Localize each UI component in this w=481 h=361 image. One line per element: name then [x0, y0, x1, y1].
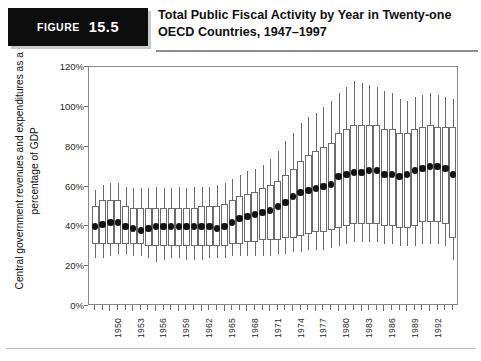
x-axis-tick-mark	[406, 305, 407, 311]
y-axis-tick-label: 100%	[50, 100, 84, 111]
plot-frame	[88, 66, 458, 305]
y-axis-tick-label: 0%	[50, 300, 84, 311]
box-quartile-range	[449, 127, 456, 239]
figure-title: Total Public Fiscal Activity by Year in …	[158, 7, 474, 40]
x-axis-tick-mark	[94, 305, 95, 310]
x-axis-tick-mark	[117, 305, 118, 310]
x-axis-tick-label: 1953	[136, 318, 146, 338]
x-axis-tick-mark	[429, 305, 430, 311]
x-axis-tick-mark	[399, 305, 400, 310]
x-axis-tick-mark	[125, 305, 126, 310]
x-axis-tick-mark	[437, 305, 438, 310]
x-axis-tick-mark	[170, 305, 171, 310]
x-axis-tick-mark	[239, 305, 240, 310]
x-axis-tick-mark	[361, 305, 362, 311]
figure-badge: Figure 15.5	[8, 8, 148, 46]
x-axis-tick-mark	[269, 305, 270, 311]
box-whisker-item	[89, 67, 457, 304]
x-axis-tick-mark	[109, 305, 110, 311]
x-axis-tick-label: 1965	[227, 318, 237, 338]
x-axis-tick-label: 1980	[341, 318, 351, 338]
x-axis-tick-mark	[102, 305, 103, 310]
x-axis-tick-label: 1989	[410, 318, 420, 338]
x-axis-tick-mark	[277, 305, 278, 310]
chart-area: Central government revenues and expendit…	[0, 52, 481, 322]
x-axis-tick-mark	[178, 305, 179, 311]
x-axis-tick-mark	[322, 305, 323, 310]
page-bottom-divider	[6, 348, 476, 349]
x-axis-tick-mark	[315, 305, 316, 311]
x-axis-tick-label: 1983	[364, 318, 374, 338]
x-axis-tick-mark	[163, 305, 164, 310]
x-axis-tick-label: 1977	[318, 318, 328, 338]
y-axis-labels: 0%20%40%60%80%100%120%	[44, 66, 84, 305]
x-axis-labels: 1950195319561959196219651968197119741977…	[88, 312, 458, 352]
x-axis-tick-label: 1968	[250, 318, 260, 338]
y-axis-tick-label: 120%	[50, 61, 84, 72]
x-axis-tick-mark	[185, 305, 186, 310]
y-axis-tick-label: 20%	[50, 260, 84, 271]
x-axis-tick-mark	[414, 305, 415, 310]
x-axis-tick-label: 1971	[273, 318, 283, 338]
x-axis-tick-mark	[155, 305, 156, 311]
median-marker	[450, 171, 457, 178]
x-axis-tick-mark	[330, 305, 331, 310]
figure-badge-label: Figure	[37, 21, 80, 33]
x-axis-tick-mark	[353, 305, 354, 310]
x-axis-tick-label: 1974	[296, 318, 306, 338]
x-axis-tick-label: 1956	[158, 318, 168, 338]
x-axis-tick-mark	[201, 305, 202, 311]
x-axis-tick-mark	[140, 305, 141, 310]
x-axis-tick-mark	[262, 305, 263, 310]
x-axis-tick-mark	[216, 305, 217, 310]
x-axis-tick-mark	[444, 305, 445, 310]
x-axis-tick-label: 1992	[433, 318, 443, 338]
x-axis-tick-mark	[307, 305, 308, 310]
x-axis-tick-label: 1950	[113, 318, 123, 338]
x-axis-tick-mark	[147, 305, 148, 310]
x-axis-tick-mark	[452, 305, 453, 310]
figure-badge-number: 15.5	[89, 19, 119, 35]
x-axis-tick-mark	[284, 305, 285, 310]
x-axis-tick-mark	[254, 305, 255, 310]
x-axis-tick-mark	[376, 305, 377, 310]
y-axis-title: Central government revenues and expendit…	[13, 51, 43, 291]
x-axis-tick-label: 1959	[181, 318, 191, 338]
x-axis-tick-mark	[300, 305, 301, 310]
x-axis-tick-mark	[193, 305, 194, 310]
x-axis-tick-mark	[383, 305, 384, 311]
y-axis-tick-label: 40%	[50, 220, 84, 231]
y-axis-tick-label: 60%	[50, 180, 84, 191]
x-axis-tick-label: 1986	[387, 318, 397, 338]
x-axis-tick-mark	[345, 305, 346, 310]
x-axis-tick-label: 1962	[204, 318, 214, 338]
x-axis-tick-mark	[208, 305, 209, 310]
x-axis-tick-mark	[338, 305, 339, 311]
x-axis-tick-mark	[246, 305, 247, 311]
x-axis-tick-mark	[231, 305, 232, 310]
x-axis-ticks	[88, 305, 458, 311]
x-axis-tick-mark	[391, 305, 392, 310]
x-axis-tick-mark	[368, 305, 369, 310]
x-axis-tick-mark	[224, 305, 225, 311]
box-whisker-series	[89, 67, 457, 304]
x-axis-tick-mark	[292, 305, 293, 311]
figure-header: Figure 15.5 Total Public Fiscal Activity…	[0, 8, 481, 50]
x-axis-tick-mark	[132, 305, 133, 311]
x-axis-tick-mark	[421, 305, 422, 310]
y-axis-tick-label: 80%	[50, 140, 84, 151]
